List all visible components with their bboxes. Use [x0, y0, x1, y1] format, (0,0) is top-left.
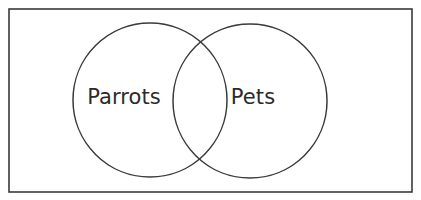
venn-diagram-svg: Parrots Pets	[0, 0, 421, 200]
set-label-pets: Pets	[231, 85, 275, 109]
venn-diagram-canvas: Parrots Pets	[0, 0, 421, 200]
set-label-parrots: Parrots	[87, 85, 161, 109]
diagram-background	[0, 0, 421, 200]
